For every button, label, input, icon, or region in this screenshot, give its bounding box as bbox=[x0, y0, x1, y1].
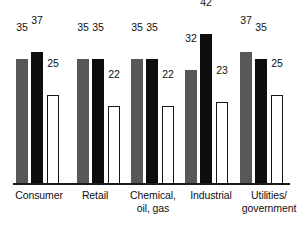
bar-group-1-series-2 bbox=[108, 106, 120, 185]
x-axis-category-label-retail: Retail bbox=[72, 189, 118, 202]
grouped-bar-chart: 35 37 25 35 35 22 35 35 22 32 42 23 37 3… bbox=[0, 0, 308, 230]
bar-value-label: 35 bbox=[141, 22, 163, 33]
bar-value-label: 42 bbox=[195, 0, 217, 8]
bar-value-label: 35 bbox=[87, 22, 109, 33]
bar-group-0-series-1 bbox=[31, 52, 43, 185]
bar-value-label: 22 bbox=[157, 69, 179, 80]
bar-group-1-series-0 bbox=[77, 59, 89, 185]
bar-group-3-series-0 bbox=[185, 70, 197, 185]
plot-area: 35 37 25 35 35 22 35 35 22 32 42 23 37 3… bbox=[0, 0, 308, 185]
bar-group-3-series-1 bbox=[200, 34, 212, 185]
bar-value-label: 22 bbox=[103, 69, 125, 80]
bar-group-0-series-2 bbox=[47, 95, 59, 185]
bar-value-label: 25 bbox=[266, 58, 288, 69]
bar-value-label: 37 bbox=[26, 15, 48, 26]
bar-group-4-series-1 bbox=[255, 59, 267, 185]
bar-value-label: 25 bbox=[42, 58, 64, 69]
bar-value-label: 23 bbox=[211, 65, 233, 76]
bar-group-2-series-0 bbox=[131, 59, 143, 185]
bar-group-4-series-0 bbox=[240, 52, 252, 185]
x-axis-baseline bbox=[13, 183, 290, 185]
bar-group-0-series-0 bbox=[16, 59, 28, 185]
bar-value-label: 32 bbox=[180, 33, 202, 44]
x-axis-category-label-consumer: Consumer bbox=[8, 189, 70, 202]
bar-value-label: 35 bbox=[250, 22, 272, 33]
bar-group-3-series-2 bbox=[216, 102, 228, 185]
bar-group-4-series-2 bbox=[271, 95, 283, 185]
x-axis-category-label-utilities: Utilities/ government bbox=[232, 189, 306, 214]
x-axis-category-label-chemical: Chemical, oil, gas bbox=[120, 189, 186, 214]
bar-group-2-series-2 bbox=[162, 106, 174, 185]
